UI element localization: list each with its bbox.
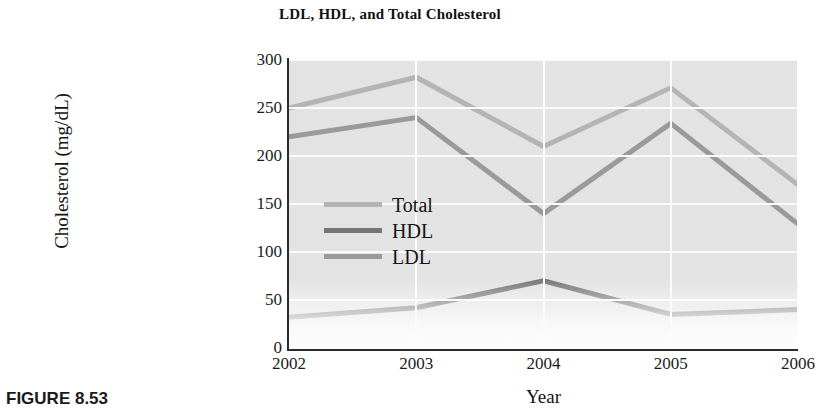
x-axis-tick-label: 2003: [376, 355, 456, 373]
y-axis-tick-label: 50: [236, 291, 282, 308]
y-axis-tick-label: 200: [236, 147, 282, 164]
x-axis-tick-label: 2006: [758, 355, 820, 373]
x-axis-title: Year: [289, 386, 798, 408]
y-axis-title: Cholesterol (mg/dL): [51, 31, 73, 311]
y-axis-tick-labels: 050100150200250300: [228, 0, 282, 412]
legend-item-ldl: LDL: [324, 244, 474, 270]
legend-label: Total: [392, 192, 433, 218]
figure-caption: FIGURE 8.53: [6, 389, 108, 409]
x-axis-tick-label: 2002: [249, 355, 329, 373]
legend-swatch-hdl: [324, 228, 382, 233]
x-axis-line: [287, 349, 798, 351]
y-axis-tick-label: 150: [236, 195, 282, 212]
gridline-vertical: [797, 60, 798, 348]
legend-swatch-ldl: [324, 254, 382, 259]
legend-label: LDL: [392, 244, 431, 270]
legend-swatch-total: [324, 202, 382, 207]
legend-label: HDL: [392, 218, 433, 244]
legend-item-total: Total: [324, 192, 474, 218]
legend-item-hdl: HDL: [324, 218, 474, 244]
y-axis-line: [287, 58, 289, 350]
gridline-vertical: [543, 60, 545, 348]
chart-legend: TotalHDLLDL: [324, 192, 474, 270]
x-axis-tick-label: 2005: [631, 355, 711, 373]
gridline-vertical: [670, 60, 672, 348]
y-axis-tick-label: 100: [236, 243, 282, 260]
y-axis-tick-label: 300: [236, 51, 282, 68]
x-axis-tick-label: 2004: [504, 355, 584, 373]
y-axis-tick-label: 250: [236, 99, 282, 116]
